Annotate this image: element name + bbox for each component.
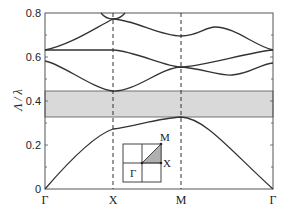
band-gap-region <box>45 91 273 117</box>
x-tick-gamma-end: Γ <box>270 193 277 207</box>
band-2 <box>45 61 273 91</box>
y-tick-0.6: 0.6 <box>26 51 41 63</box>
y-tick-0.2: 0.2 <box>26 139 41 151</box>
band-structure-chart: Γ X M 0 0.2 0.4 0.6 0.8 Λ / λ Γ X M Γ <box>0 0 288 216</box>
band-4 <box>45 19 273 50</box>
y-tick-0.8: 0.8 <box>26 7 41 19</box>
inset-m-label: M <box>160 131 170 143</box>
y-tick-0: 0 <box>35 183 41 195</box>
y-tick-0.4: 0.4 <box>26 95 41 107</box>
inset-x-label: X <box>163 157 171 169</box>
brillouin-zone-inset: Γ X M <box>123 131 171 182</box>
y-axis-title: Λ / λ <box>11 89 25 112</box>
x-tick-m: M <box>176 193 187 207</box>
x-tick-gamma-start: Γ <box>42 193 49 207</box>
inset-gamma-label: Γ <box>130 167 136 179</box>
band-3 <box>45 50 273 67</box>
x-tick-x: X <box>109 193 118 207</box>
